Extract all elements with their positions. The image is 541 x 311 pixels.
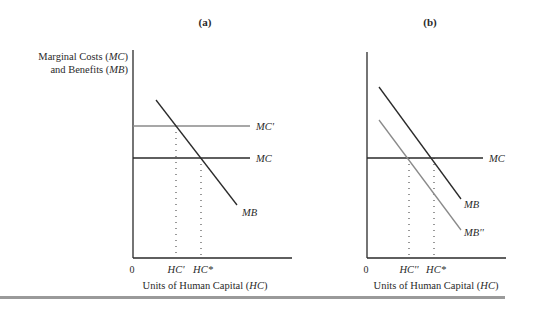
mb-label: MB bbox=[241, 207, 258, 218]
panel-b-title: (b) bbox=[423, 16, 437, 29]
origin-label: 0 bbox=[364, 264, 369, 275]
hc-double-prime-label: HC'' bbox=[398, 264, 419, 275]
mb-line bbox=[156, 100, 237, 205]
hc-prime-label: HC' bbox=[167, 264, 186, 275]
bottom-rule bbox=[0, 296, 505, 299]
mb-double-prime-label: MB'' bbox=[463, 227, 484, 238]
panel-a: (a) Marginal Costs (MC) and Benefits (MB… bbox=[38, 16, 292, 292]
mb-line bbox=[379, 87, 461, 199]
hc-star-label: HC* bbox=[425, 264, 447, 275]
mc-label: MC bbox=[255, 153, 273, 164]
mb-double-prime-line bbox=[379, 120, 461, 230]
x-axis-label: Units of Human Capital (HC) bbox=[143, 280, 268, 292]
panel-a-title: (a) bbox=[199, 16, 212, 29]
mb-label: MB bbox=[463, 199, 480, 210]
hc-star-label: HC* bbox=[192, 264, 214, 275]
mc-label: MC bbox=[488, 153, 506, 164]
mc-prime-label: MC' bbox=[255, 121, 275, 132]
origin-label: 0 bbox=[130, 264, 135, 275]
figure: (a) Marginal Costs (MC) and Benefits (MB… bbox=[0, 0, 541, 311]
y-axis-label-line1: Marginal Costs (MC) bbox=[38, 51, 128, 63]
y-axis-label-line2: and Benefits (MB) bbox=[50, 64, 128, 76]
panel-b: (b) MC MB MB'' 0 HC'' HC* Units of Human… bbox=[364, 16, 507, 292]
x-axis-label: Units of Human Capital (HC) bbox=[374, 280, 499, 292]
